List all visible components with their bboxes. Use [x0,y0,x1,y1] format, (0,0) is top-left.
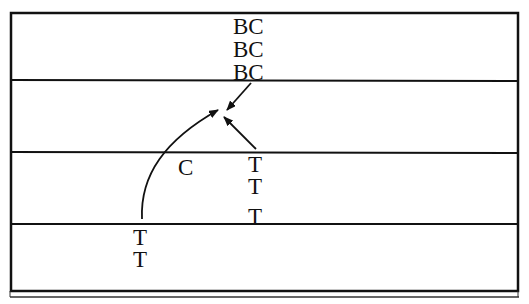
label-bc-1: BC [233,14,264,39]
label-t-right-2: T [248,174,262,199]
arrow-from-bc [227,83,251,110]
label-bc-3: BC [233,60,264,85]
layer-divider-1 [11,80,518,81]
label-c: C [178,155,193,180]
layer-divider-2 [11,152,518,153]
arrow-from-t-right [224,117,256,149]
diagram-canvas: BC BC BC C T T T T T [0,0,529,304]
label-bc-2: BC [233,37,264,62]
label-t-left-2: T [133,247,147,272]
label-t-right-3: T [248,204,262,229]
